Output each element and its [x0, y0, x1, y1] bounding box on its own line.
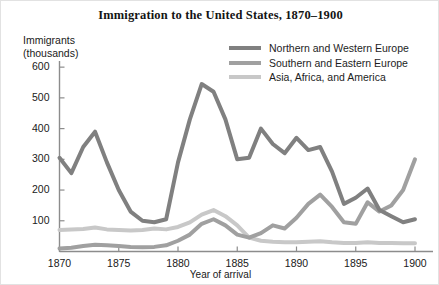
legend-item-label: Northern and Western Europe: [269, 42, 409, 54]
data-series-line: [60, 84, 416, 222]
x-axis-tick-label: 1875: [97, 257, 141, 269]
legend-color-swatch: [229, 61, 261, 65]
chart-figure: Immigration to the United States, 1870–1…: [0, 0, 439, 285]
x-axis-tick-label: 1895: [334, 257, 378, 269]
x-axis-tick-label: 1900: [393, 257, 437, 269]
legend-color-swatch: [229, 75, 261, 79]
y-axis-tick-label: 600: [18, 60, 50, 72]
x-axis-tick-label: 1870: [38, 257, 82, 269]
legend-item[interactable]: Southern and Eastern Europe: [229, 56, 409, 71]
legend-item-label: Southern and Eastern Europe: [269, 57, 408, 69]
legend-item-label: Asia, Africa, and America: [269, 71, 386, 83]
legend-color-swatch: [229, 46, 261, 50]
x-axis-tick-label: 1890: [275, 257, 319, 269]
x-axis-title: Year of arrival: [1, 269, 439, 280]
y-axis-tick-label: 100: [18, 214, 50, 226]
y-axis-tick-label: 400: [18, 122, 50, 134]
y-axis-tick-label: 300: [18, 152, 50, 164]
y-axis-tick-label: 500: [18, 91, 50, 103]
y-axis-tick-label: 200: [18, 183, 50, 195]
legend-item[interactable]: Asia, Africa, and America: [229, 70, 409, 85]
data-series-group: [60, 84, 416, 248]
legend-item[interactable]: Northern and Western Europe: [229, 41, 409, 56]
chart-legend: Northern and Western EuropeSouthern and …: [229, 41, 409, 85]
x-axis-tick-label: 1885: [215, 257, 259, 269]
x-axis-tick-label: 1880: [156, 257, 200, 269]
